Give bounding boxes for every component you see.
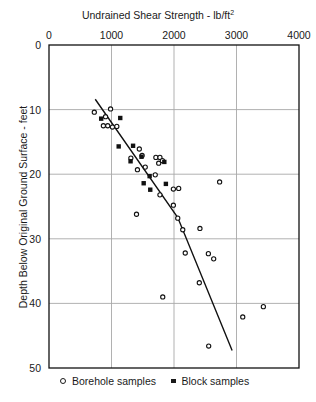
legend: Borehole samples Block samples (0, 373, 316, 389)
borehole-point (181, 228, 185, 232)
borehole-point (198, 226, 202, 230)
borehole-circle-icon (60, 378, 66, 384)
block-point (164, 182, 168, 186)
borehole-point (101, 124, 105, 128)
borehole-point (171, 187, 175, 191)
borehole-point (161, 295, 165, 299)
borehole-point (137, 147, 141, 151)
block-point (141, 181, 145, 185)
borehole-point (143, 165, 147, 169)
block-point (128, 159, 132, 163)
legend-item-borehole: Borehole samples (60, 373, 156, 389)
block-point (147, 174, 151, 178)
block-point (99, 116, 103, 120)
borehole-point (158, 193, 162, 197)
borehole-point (176, 216, 180, 220)
borehole-point (108, 107, 112, 111)
borehole-point (153, 173, 157, 177)
borehole-point (183, 251, 187, 255)
block-point (139, 155, 143, 159)
scatter-plot (0, 0, 316, 402)
trend-line (95, 99, 232, 350)
borehole-point (261, 305, 265, 309)
borehole-point (171, 203, 175, 207)
block-point (116, 144, 120, 148)
borehole-point (218, 180, 222, 184)
borehole-point (157, 161, 161, 165)
borehole-point (92, 110, 96, 114)
borehole-point (212, 257, 216, 261)
block-point (162, 160, 166, 164)
borehole-point (206, 252, 210, 256)
borehole-point (103, 115, 107, 119)
borehole-point (207, 344, 211, 348)
legend-label-borehole: Borehole samples (72, 375, 156, 387)
figure: Undrained Shear Strength - lb/ft2 010002… (0, 0, 316, 402)
legend-label-block: Block samples (182, 375, 250, 387)
block-square-icon (171, 379, 176, 384)
borehole-point (135, 168, 139, 172)
block-point (148, 188, 152, 192)
block-point (118, 116, 122, 120)
borehole-point (197, 281, 201, 285)
borehole-point (110, 125, 114, 129)
block-point (131, 144, 135, 148)
borehole-point (177, 186, 181, 190)
borehole-point (241, 315, 245, 319)
borehole-point (115, 124, 119, 128)
borehole-point (134, 212, 138, 216)
borehole-point (106, 124, 110, 128)
legend-item-block: Block samples (171, 373, 249, 389)
